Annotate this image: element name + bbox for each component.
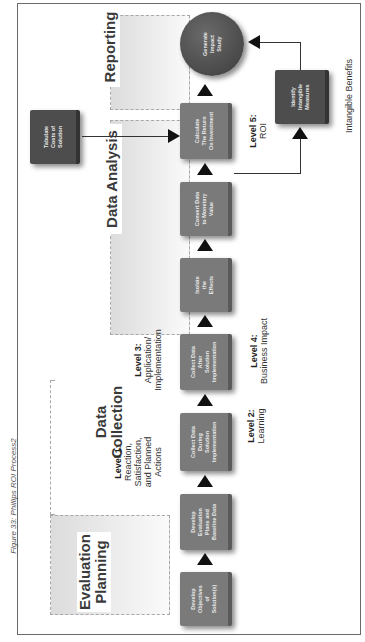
level-title: Level 2:	[246, 401, 256, 451]
level-title: Level 5:	[248, 106, 258, 156]
step-label: Develop Objectives of Solution(s)	[190, 564, 218, 634]
phase-reporting-label: Reporting	[102, 7, 120, 87]
step-generate-impact-study: Generate Impact Study	[180, 12, 244, 76]
phase-data-analysis-bg	[110, 120, 190, 335]
step-collect-data-after: Collect Data After Solution Implementati…	[180, 334, 232, 390]
step-calculate-roi: Calculate The Return On Investment	[180, 103, 232, 159]
level-title: Level 3:	[133, 320, 143, 400]
step-label: Develop Evaluation Plans and Baseline Da…	[190, 487, 218, 557]
step-label: Isolate the Effects	[194, 250, 215, 320]
level-text: Reaction, Satisfaction, and Planned Acti…	[123, 437, 163, 488]
arrow-up-icon	[197, 84, 213, 96]
phase-data-analysis-label: Data Analysis	[104, 124, 122, 234]
arrow-up-icon	[292, 127, 308, 139]
step-convert-data: Convert Data to Monetary Value	[180, 182, 232, 236]
step-label: Tabulate Costs of Solution	[43, 102, 64, 172]
connector-line	[234, 173, 300, 174]
level-text: ROI	[258, 123, 268, 139]
connector-line	[300, 138, 301, 174]
phase-data-collection-bg	[50, 380, 55, 515]
level-title: Level 1:	[113, 417, 123, 507]
phase-reporting-bg	[110, 15, 190, 110]
phase-evaluation-planning-label: Evaluation Planning	[77, 532, 111, 612]
level-4: Level 4:Business Impact	[249, 311, 271, 391]
step-label: Calculate The Return On Investment	[194, 96, 215, 166]
step-label: Identify Intangible Measures	[290, 62, 311, 132]
level-3: Level 3:Application/ Implementation	[133, 320, 163, 400]
figure-caption: Figure 33: Phillips ROI Process2	[9, 426, 21, 566]
level-title: Level 4:	[249, 311, 259, 391]
level-1: Level 1:Reaction, Satisfaction, and Plan…	[113, 417, 157, 507]
connector-line	[300, 42, 301, 70]
step-label: Generate Impact Study	[202, 9, 223, 79]
step-label: Collect Data After Solution Implementati…	[190, 327, 218, 397]
level-5: Level 5:ROI	[248, 106, 270, 156]
level-text: Application/ Implementation	[143, 329, 163, 391]
arrow-right-icon	[168, 129, 180, 143]
step-collect-data-during: Collect Data During Solution Implementat…	[180, 413, 232, 471]
step-tabulate-costs: Tabulate Costs of Solution	[30, 110, 80, 164]
step-isolate-effects: Isolate the Effects	[180, 258, 232, 312]
level-text: Business Impact	[259, 318, 269, 384]
step-develop-evaluation-plans: Develop Evaluation Plans and Baseline Da…	[180, 494, 232, 550]
step-identify-intangibles: Identify Intangible Measures	[275, 70, 329, 124]
step-develop-objectives: Develop Objectives of Solution(s)	[180, 572, 232, 626]
connector-line	[82, 136, 170, 137]
intangible-benefits-label: Intangible Benefits	[344, 41, 356, 151]
connector-line	[260, 42, 301, 43]
arrow-left-icon	[248, 35, 260, 49]
level-2: Level 2:Learning	[246, 401, 268, 451]
step-label: Collect Data During Solution Implementat…	[190, 407, 218, 477]
level-text: Learning	[256, 408, 266, 443]
step-label: Convert Data to Monetary Value	[194, 174, 215, 244]
